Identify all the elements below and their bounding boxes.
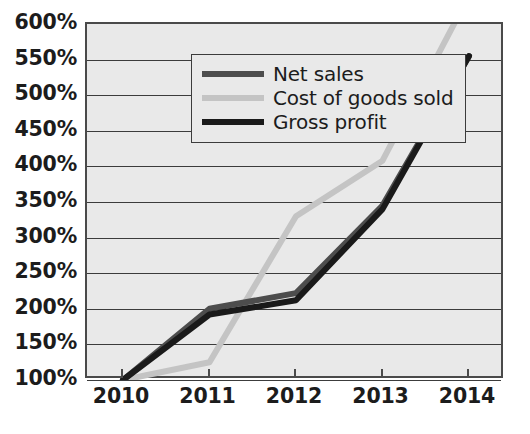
y-axis-tick-label: 350% (0, 190, 77, 211)
legend-item: Gross profit (202, 110, 453, 134)
legend-swatch-icon (202, 71, 264, 77)
line-chart-figure: 600%550%500%450%400%350%300%250%200%150%… (0, 0, 530, 434)
x-axis-tick-mark (294, 369, 296, 378)
legend: Net salesCost of goods soldGross profit (191, 54, 466, 143)
y-axis-tick-label: 450% (0, 119, 77, 140)
legend-item: Net sales (202, 62, 453, 86)
x-axis-tick-label: 2011 (168, 386, 248, 407)
y-axis-tick-label: 500% (0, 83, 77, 104)
y-axis-tick-label: 150% (0, 332, 77, 353)
x-axis-tick-label: 2013 (341, 386, 421, 407)
x-axis-tick-label: 2010 (81, 386, 161, 407)
legend-swatch-icon (202, 119, 264, 125)
x-axis-tick-mark (121, 369, 123, 378)
legend-label: Gross profit (273, 112, 386, 132)
legend-item: Cost of goods sold (202, 86, 453, 110)
plot-area: Net salesCost of goods soldGross profit (85, 22, 503, 378)
y-axis-tick-label: 400% (0, 154, 77, 175)
y-axis-tick-label: 100% (0, 368, 77, 389)
y-axis-tick-label: 200% (0, 297, 77, 318)
legend-label: Cost of goods sold (273, 88, 453, 108)
legend-label: Net sales (273, 64, 364, 84)
legend-swatch-icon (202, 95, 264, 101)
x-axis-tick-label: 2012 (254, 386, 334, 407)
y-axis-tick-label: 250% (0, 261, 77, 282)
y-axis-tick-label: 300% (0, 226, 77, 247)
y-axis-tick-label: 600% (0, 12, 77, 33)
x-axis-tick-mark (381, 369, 383, 378)
y-axis-tick-label: 550% (0, 48, 77, 69)
x-axis-tick-mark (208, 369, 210, 378)
gridline (87, 380, 501, 381)
x-axis-tick-mark (467, 369, 469, 378)
x-axis-tick-label: 2014 (427, 386, 507, 407)
